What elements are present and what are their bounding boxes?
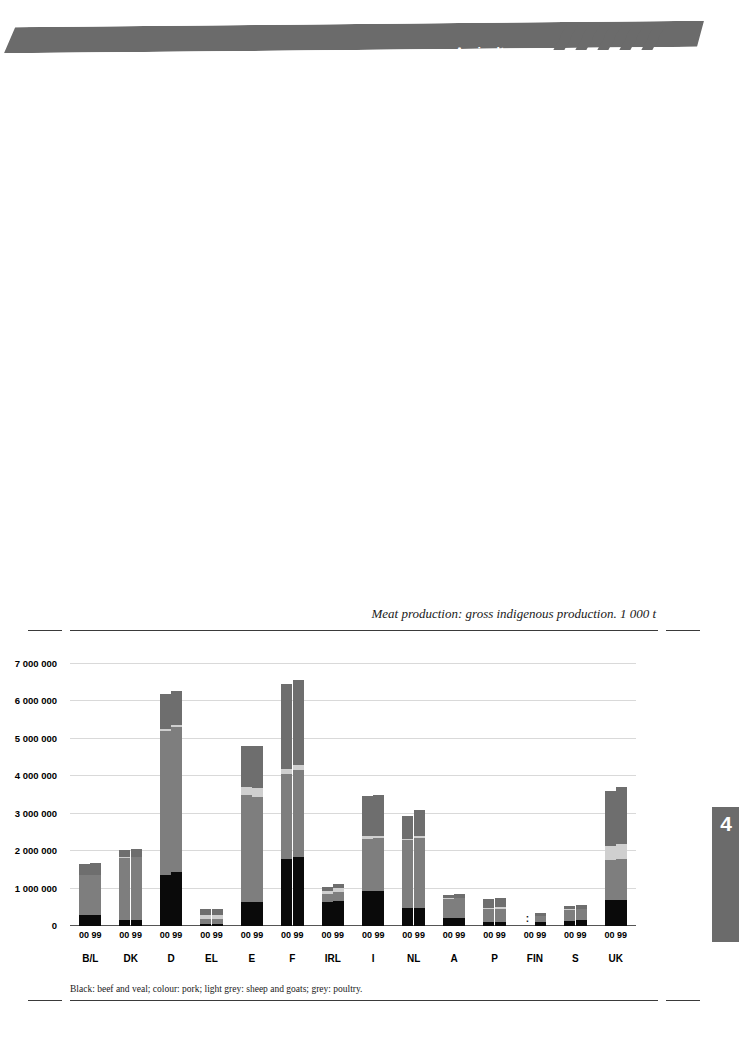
chart-bar-segment-beef (281, 859, 292, 926)
chart-bar (293, 680, 304, 926)
chart-bar (616, 787, 627, 926)
chart-bar-segment-sheep (252, 788, 263, 797)
chart-plot-area: 01 000 0002 000 0003 000 0004 000 0005 0… (70, 656, 658, 926)
chart-bar-segment-beef (495, 922, 506, 926)
chart-bar-segment-beef (402, 908, 413, 926)
x-axis-country-label: D (151, 953, 191, 964)
chart-bar-segment-beef (535, 922, 546, 926)
chart-gridline (70, 738, 636, 739)
chart-bar-segment-poultry (483, 899, 494, 908)
chart-bar-segment-poultry (293, 680, 304, 765)
chart-bar-segment-pork (293, 770, 304, 857)
chart-bar-segment-pork (160, 731, 171, 876)
chart-bar (252, 746, 263, 926)
x-axis-group-NL: 00 99NL (393, 930, 433, 964)
chart-bar (402, 816, 413, 926)
chart-bar-segment-poultry (79, 864, 90, 875)
chart-bar-segment-beef (241, 902, 252, 926)
chart-gridline (70, 700, 636, 701)
chart-bar-segment-pork (281, 774, 292, 859)
chart-bar-segment-beef (483, 922, 494, 926)
chart-bar-segment-beef (373, 891, 384, 926)
data-not-available-marker: : (526, 914, 529, 924)
chart-bar (564, 906, 575, 926)
chart-bar-segment-pork (414, 838, 425, 908)
chart-bar-segment-sheep (605, 846, 616, 860)
chart-baseline (70, 925, 636, 926)
x-axis-country-label: A (434, 953, 474, 964)
chart-bar-segment-pork (322, 894, 333, 903)
chart-bar-segment-beef (322, 902, 333, 926)
chart-bar-segment-pork (79, 875, 90, 915)
x-axis-group-A: 00 99A (434, 930, 474, 964)
chart-title: Meat production: gross indigenous produc… (371, 606, 656, 622)
chart-bar (443, 895, 454, 926)
x-axis-year-labels: 00 99 (151, 930, 191, 940)
rule-top-right (666, 630, 700, 631)
rule-top-left (28, 630, 62, 631)
page-title: Agriculture (455, 45, 525, 60)
x-axis-country-label: P (474, 953, 514, 964)
chart-bar-segment-poultry (616, 787, 627, 844)
chart-bar-segment-beef (362, 891, 373, 926)
chart-bar-segment-poultry (362, 796, 373, 836)
chart-bar (483, 899, 494, 926)
chart-bar-segment-beef (212, 924, 223, 926)
x-axis-country-label: EL (191, 953, 231, 964)
x-axis-group-E: 00 99E (232, 930, 272, 964)
x-axis-country-label: F (272, 953, 312, 964)
x-axis-country-label: NL (393, 953, 433, 964)
x-axis-country-label: B/L (70, 953, 110, 964)
chart-bar (495, 898, 506, 926)
chart-bar (535, 913, 546, 926)
chart-footnote: Black: beef and veal; colour: pork; ligh… (70, 984, 362, 994)
chart-bar-segment-beef (414, 908, 425, 926)
y-axis-tick-label: 3 000 000 (15, 807, 57, 818)
chart-bar-segment-pork (252, 797, 263, 903)
chart-bar-segment-beef (131, 920, 142, 926)
chart-bar-segment-beef (171, 872, 182, 926)
x-axis-year-labels: 00 99 (272, 930, 312, 940)
chart-gridline (70, 850, 636, 851)
chart-bar-segment-pork (119, 858, 130, 921)
chart-bar-segment-poultry (252, 746, 263, 788)
chart-bar-segment-poultry (605, 791, 616, 846)
chart-bar-segment-beef (252, 902, 263, 926)
chart-bar-segment-pork (90, 875, 101, 915)
x-axis-group-I: 00 99I (353, 930, 393, 964)
header-banner: Agriculture (0, 18, 739, 58)
x-axis-country-label: DK (110, 953, 150, 964)
chart-bar-segment-pork (171, 727, 182, 873)
x-axis-country-label: UK (596, 953, 636, 964)
rule-bottom-main (70, 1000, 658, 1001)
chart-bar-segment-poultry (171, 691, 182, 725)
chart-bar-segment-beef (333, 901, 344, 926)
chart-bar-segment-poultry (373, 795, 384, 836)
chart-bar-segment-poultry (90, 863, 101, 874)
chart-bar-segment-pork (402, 840, 413, 908)
x-axis-group-UK: 00 99UK (596, 930, 636, 964)
x-axis-group-B/L: 00 99B/L (70, 930, 110, 964)
rule-top-main (70, 630, 658, 631)
chart-bar-segment-pork (241, 795, 252, 902)
x-axis-group-F: 00 99F (272, 930, 312, 964)
x-axis-year-labels: 00 99 (191, 930, 231, 940)
chart-bar (119, 850, 130, 926)
x-axis-year-labels: 00 99 (555, 930, 595, 940)
x-axis-group-EL: 00 99EL (191, 930, 231, 964)
chart-bar (605, 791, 616, 926)
x-axis-year-labels: 00 99 (110, 930, 150, 940)
chart-bar-segment-pork (333, 892, 344, 901)
x-axis-group-P: 00 99P (474, 930, 514, 964)
chart-bar-segment-poultry (241, 746, 252, 787)
chart-bar-segment-beef (443, 918, 454, 926)
chart-gridline (70, 663, 636, 664)
chart-bar-segment-beef (576, 920, 587, 926)
chart-bar (454, 894, 465, 926)
chart-bar (212, 909, 223, 926)
chart-bar (241, 746, 252, 926)
chart-bar-segment-beef (79, 915, 90, 926)
rule-bottom-right (666, 1000, 700, 1001)
chart-bar-segment-beef (200, 924, 211, 926)
chart-bar-segment-beef (454, 918, 465, 926)
